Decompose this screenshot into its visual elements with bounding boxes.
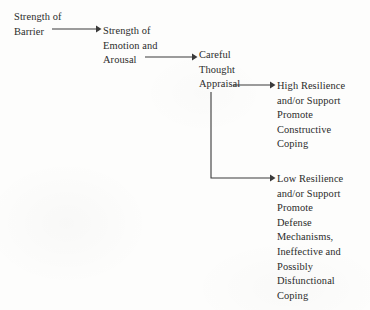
node-line: Coping	[277, 137, 345, 152]
node-line: Mechanisms,	[277, 230, 343, 245]
node-line: Appraisal	[199, 77, 240, 92]
node-strength-of-barrier: Strength of Barrier	[14, 10, 62, 39]
node-line: Constructive	[277, 123, 345, 138]
node-line: Possibly	[277, 260, 343, 275]
flow-diagram: Strength of Barrier Strength of Emotion …	[0, 0, 370, 310]
node-line: Promote	[277, 201, 343, 216]
node-line: High Resilience	[277, 79, 345, 94]
node-line: Thought	[199, 63, 240, 78]
node-careful-thought-appraisal: Careful Thought Appraisal	[199, 48, 240, 92]
node-low-resilience-outcome: Low Resilience and/or Support Promote De…	[277, 172, 343, 303]
node-high-resilience-outcome: High Resilience and/or Support Promote C…	[277, 79, 345, 152]
arrow-appraisal-to-low-resilience	[211, 92, 276, 181]
node-line: Ineffective and	[277, 245, 343, 260]
node-strength-of-emotion-and-arousal: Strength of Emotion and Arousal	[103, 24, 158, 68]
node-line: Low Resilience	[277, 172, 343, 187]
node-line: Emotion and	[103, 39, 158, 54]
node-line: Strength of	[103, 24, 158, 39]
node-line: Disfunctional	[277, 274, 343, 289]
node-line: Careful	[199, 48, 240, 63]
node-line: Coping	[277, 289, 343, 304]
node-line: Arousal	[103, 53, 158, 68]
node-line: Defense	[277, 216, 343, 231]
node-line: Strength of	[14, 10, 62, 25]
node-line: and/or Support	[277, 94, 345, 109]
node-line: Barrier	[14, 25, 62, 40]
node-line: Promote	[277, 108, 345, 123]
node-line: and/or Support	[277, 187, 343, 202]
